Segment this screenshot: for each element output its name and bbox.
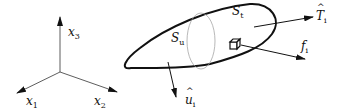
x1-axis-label: x1 <box>26 95 38 110</box>
x2-axis-label: x2 <box>94 95 106 110</box>
volume-element-cube-icon <box>230 39 240 49</box>
diagram-canvas <box>0 0 342 111</box>
traction-label: Ti <box>316 10 327 25</box>
body-force-vector-arrow <box>241 45 305 59</box>
surface-divider-ellipse <box>187 13 215 69</box>
x1-axis-arrow <box>17 72 60 93</box>
displacement-label: ui <box>185 94 195 109</box>
x2-axis-arrow <box>60 72 117 92</box>
x3-axis-label: x3 <box>68 26 80 41</box>
surface-st-label: St <box>232 5 243 20</box>
traction-vector-arrow <box>254 17 313 27</box>
surface-su-label: Su <box>171 32 184 47</box>
body-force-label: fi <box>301 40 308 55</box>
body-outline <box>125 4 276 68</box>
coordinate-axes <box>17 17 117 93</box>
